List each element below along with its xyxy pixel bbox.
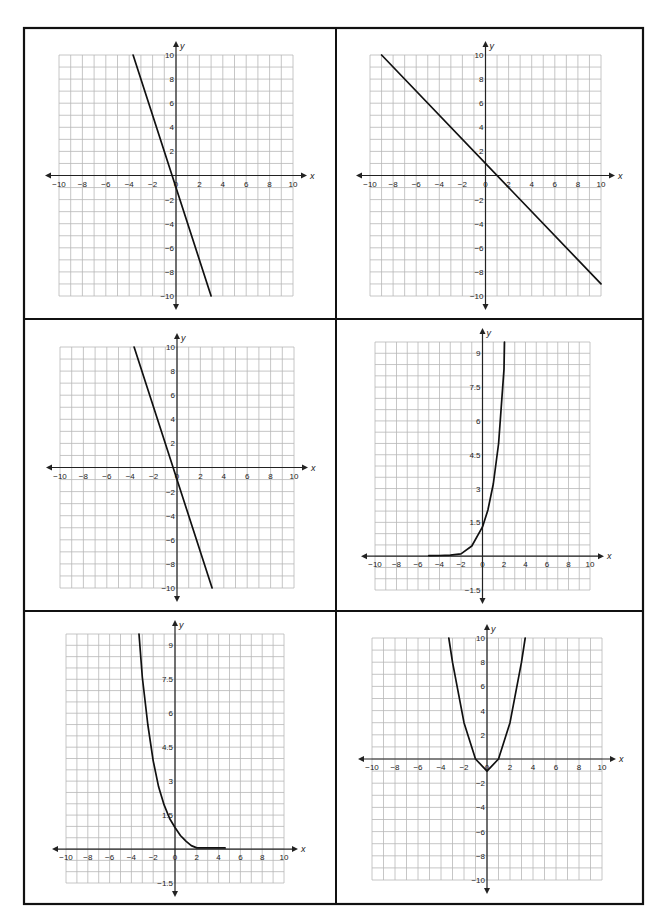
y-axis-arrow-up-icon	[174, 333, 180, 339]
x-tick-label: 10	[598, 763, 607, 772]
y-tick-label: −10	[471, 876, 485, 885]
y-axis-arrow-up-icon	[172, 620, 178, 626]
y-tick-label: −2	[476, 779, 486, 788]
y-tick-label: 9	[476, 349, 481, 358]
x-axis-arrow-left-icon	[358, 756, 364, 762]
x-tick-label: 0	[480, 560, 485, 569]
x-tick-label: −4	[127, 853, 137, 862]
y-axis-arrow-up-icon	[483, 41, 489, 47]
x-axis-arrow-right-icon	[301, 173, 307, 179]
x-tick-label: −2	[459, 763, 469, 772]
graph-middle-right: xy−10−8−6−4−20246810−1.51.534.567.59	[361, 328, 612, 604]
y-tick-label: −4	[166, 512, 176, 521]
y-axis-arrow-down-icon	[480, 598, 486, 604]
x-tick-label: −6	[101, 180, 111, 189]
x-tick-label: −4	[435, 180, 445, 189]
y-tick-label: −6	[165, 244, 175, 253]
tick-labels: −10−8−6−4−20246810−1.51.534.567.59	[59, 641, 289, 888]
x-tick-label: 2	[502, 560, 507, 569]
x-axis-label: x	[309, 171, 315, 181]
y-tick-label: −6	[476, 828, 486, 837]
y-tick-label: 6	[171, 391, 176, 400]
x-axis-label: x	[300, 844, 306, 854]
y-tick-label: −6	[474, 244, 484, 253]
y-tick-label: 7.5	[469, 383, 481, 392]
x-tick-label: 0	[483, 180, 488, 189]
x-tick-label: −4	[436, 763, 446, 772]
x-tick-label: 8	[267, 180, 272, 189]
y-tick-label: 2	[481, 731, 486, 740]
x-tick-label: −8	[83, 853, 93, 862]
y-axis-label: y	[179, 41, 185, 51]
y-axis-label: y	[180, 333, 186, 343]
x-tick-label: 4	[216, 853, 221, 862]
y-tick-label: 10	[475, 51, 484, 60]
x-tick-label: −10	[363, 180, 377, 189]
x-tick-label: −4	[126, 472, 136, 481]
y-axis-label: y	[490, 624, 496, 634]
x-tick-label: 10	[280, 853, 289, 862]
y-tick-label: 6	[481, 682, 486, 691]
x-tick-label: −6	[412, 180, 422, 189]
y-axis-label: y	[486, 328, 492, 338]
x-tick-label: 2	[195, 853, 200, 862]
y-tick-label: 8	[479, 75, 484, 84]
graph-bottom-left: xy−10−8−6−4−20246810−1.51.534.567.59	[52, 620, 306, 897]
y-axis-arrow-down-icon	[483, 304, 489, 310]
x-tick-label: −2	[149, 853, 159, 862]
x-tick-label: 6	[554, 763, 559, 772]
graph-top-left: xy−10−8−6−4−20246810−10−8−6−4−2246810	[45, 41, 315, 310]
x-tick-label: 10	[586, 560, 595, 569]
x-tick-label: 4	[529, 180, 534, 189]
x-tick-label: −8	[79, 472, 89, 481]
tick-labels: −10−8−6−4−20246810−1.51.534.567.59	[368, 349, 595, 595]
x-tick-label: −10	[52, 180, 66, 189]
y-tick-label: −4	[474, 220, 484, 229]
x-tick-label: −8	[78, 180, 88, 189]
x-tick-label: 10	[290, 472, 299, 481]
y-tick-label: −10	[470, 292, 484, 301]
y-tick-label: 2	[170, 147, 175, 156]
x-axis-arrow-right-icon	[292, 846, 298, 852]
y-tick-label: −4	[165, 220, 175, 229]
x-tick-label: −6	[413, 560, 423, 569]
x-tick-label: 8	[260, 853, 265, 862]
x-axis-arrow-right-icon	[610, 756, 616, 762]
x-tick-label: 2	[508, 763, 513, 772]
y-tick-label: 3	[169, 777, 174, 786]
x-tick-label: 4	[523, 560, 528, 569]
y-tick-label: 4.5	[162, 743, 174, 752]
x-tick-label: 10	[289, 180, 298, 189]
y-tick-label: 6	[479, 99, 484, 108]
y-axis-label: y	[178, 620, 184, 630]
x-tick-label: 10	[597, 180, 606, 189]
x-tick-label: −4	[125, 180, 135, 189]
y-tick-label: −4	[476, 803, 486, 812]
y-tick-label: −8	[165, 268, 175, 277]
y-axis-arrow-down-icon	[172, 891, 178, 897]
y-axis-arrow-up-icon	[484, 624, 490, 630]
y-axis-label: y	[489, 41, 495, 51]
x-tick-label: −4	[435, 560, 445, 569]
y-tick-label: −8	[166, 560, 176, 569]
x-tick-label: 6	[545, 560, 550, 569]
x-tick-label: 8	[268, 472, 273, 481]
x-tick-label: 4	[222, 472, 227, 481]
graph-middle-left: xy−10−8−6−4−20246810−10−8−6−4−2246810	[46, 333, 316, 602]
y-tick-label: 4	[170, 123, 175, 132]
axes: xy	[46, 333, 316, 602]
y-tick-label: 9	[169, 641, 174, 650]
x-axis-arrow-left-icon	[45, 173, 51, 179]
y-tick-label: 6	[169, 709, 174, 718]
x-tick-label: 6	[238, 853, 243, 862]
x-axis-label: x	[617, 171, 623, 181]
x-tick-label: 6	[244, 180, 249, 189]
y-tick-label: 8	[171, 367, 176, 376]
x-tick-label: 6	[245, 472, 250, 481]
x-tick-label: −6	[102, 472, 112, 481]
y-axis-arrow-down-icon	[174, 596, 180, 602]
x-tick-label: −6	[413, 763, 423, 772]
graph-top-right: xy−10−8−6−4−20246810−10−8−6−4−2246810	[356, 41, 623, 310]
y-tick-label: −10	[160, 292, 174, 301]
x-tick-label: −6	[105, 853, 115, 862]
